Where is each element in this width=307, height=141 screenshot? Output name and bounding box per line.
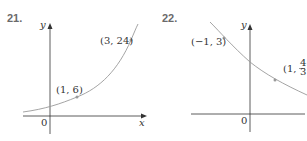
point-label-3-24: (3, 24) [100, 35, 133, 46]
graph-21: y x 0 (1, 6) (3, 24) [23, 19, 147, 134]
point-label-1-6: (1, 6) [56, 84, 83, 95]
decay-curve [210, 22, 307, 95]
point-1-4-3 [274, 79, 277, 82]
graphs: y x 0 (1, 6) (3, 24) y 0 (−1, 3) (1, 4 3 [0, 0, 307, 141]
origin-label: 0 [241, 115, 247, 126]
origin-label: 0 [41, 117, 47, 128]
point-1-6 [76, 96, 79, 99]
graph-22: y 0 (−1, 3) (1, 4 3 [191, 19, 307, 132]
point-label-1-4-3-prefix: (1, [283, 63, 296, 74]
y-axis-arrow-icon [48, 23, 53, 29]
point-label-neg1-3: (−1, 3) [191, 36, 226, 47]
x-axis-label: x [139, 117, 145, 128]
y-axis-label: y [39, 19, 46, 30]
fraction-denominator: 3 [300, 66, 306, 77]
y-axis-label: y [240, 19, 247, 30]
y-axis-arrow-icon [248, 24, 253, 30]
